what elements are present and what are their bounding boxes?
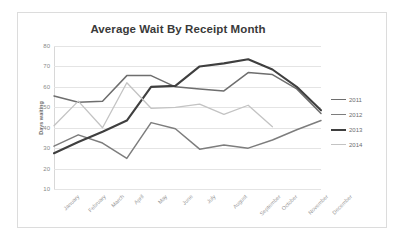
legend-swatch-2013	[331, 129, 346, 131]
series-line-2014	[54, 83, 272, 128]
y-axis-tick-label: 80	[43, 43, 50, 49]
y-axis-tick-label: 70	[43, 63, 50, 69]
y-axis-tick-label: 10	[43, 186, 50, 192]
legend-label: 2011	[349, 97, 362, 103]
y-axis-tick-label: 20	[43, 166, 50, 172]
plot-area: Days waiting 8070605040302010 JanuaryFeb…	[54, 46, 321, 189]
x-axis-tick-label: July	[205, 193, 216, 204]
x-axis-tick-label: February	[87, 193, 107, 213]
legend-item-2013[interactable]: 2013	[331, 122, 387, 137]
chart-legend: 2011201220132014	[331, 92, 387, 152]
y-axis-tick-label: 30	[43, 145, 50, 151]
y-axis-tick-label: 40	[43, 125, 50, 131]
gridline	[54, 189, 321, 190]
series-line-2012	[54, 121, 321, 159]
x-axis-tick-label: August	[232, 193, 248, 209]
x-axis-tick-label: May	[157, 193, 169, 205]
chart-title: Average Wait By Receipt Month	[18, 23, 338, 35]
x-axis-tick-label: January	[62, 193, 80, 211]
x-axis-tick-label: October	[281, 193, 299, 211]
legend-item-2011[interactable]: 2011	[331, 92, 387, 107]
x-axis-tick-label: April	[133, 193, 145, 205]
legend-label: 2012	[349, 112, 362, 118]
legend-item-2012[interactable]: 2012	[331, 107, 387, 122]
x-axis-tick-label: September	[259, 193, 282, 216]
x-axis-tick-label: June	[181, 193, 194, 206]
x-axis-tick-label: December	[331, 193, 353, 215]
legend-swatch-2012	[331, 114, 346, 115]
x-axis-tick-label: March	[110, 193, 125, 208]
legend-swatch-2011	[331, 99, 346, 100]
y-axis-tick-label: 60	[43, 84, 50, 90]
series-lines	[54, 46, 321, 189]
x-axis-tick-label: November	[307, 193, 329, 215]
y-axis-tick-label: 50	[43, 104, 50, 110]
chart-container: Average Wait By Receipt Month Days waiti…	[17, 12, 387, 228]
legend-item-2014[interactable]: 2014	[331, 137, 387, 152]
legend-swatch-2014	[331, 144, 346, 145]
legend-label: 2014	[349, 142, 362, 148]
legend-label: 2013	[349, 127, 362, 133]
series-line-2011	[54, 73, 321, 114]
